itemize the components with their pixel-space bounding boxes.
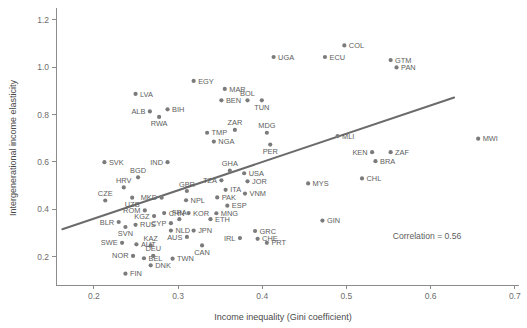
y-tick-label: 1.0: [37, 62, 49, 72]
point-marker: [160, 196, 164, 200]
data-point: VNM: [243, 189, 266, 198]
point-marker: [157, 115, 161, 119]
data-points: LVAEGYALBBIHRWACOLUGAECUGTMPANMARBOLBENT…: [98, 41, 498, 278]
plot-canvas: 0.20.30.40.50.60.70.20.40.60.81.01.2 LVA…: [0, 0, 527, 328]
data-point: IRL: [224, 234, 242, 243]
point-marker: [133, 92, 137, 96]
point-label: TUN: [254, 103, 269, 112]
data-point: SWE: [101, 238, 124, 247]
data-point: PER: [263, 143, 278, 157]
point-marker: [265, 131, 269, 135]
point-marker: [133, 223, 137, 227]
point-marker: [268, 143, 272, 147]
data-point: MKD: [141, 193, 164, 202]
data-point: MDG: [258, 121, 275, 135]
x-axis-title: Income inequality (Gini coefficient): [214, 312, 351, 322]
x-tick-label: 0.4: [256, 291, 268, 301]
x-tick-label: 0.5: [341, 291, 353, 301]
annotations: Correlation = 0.56: [393, 231, 462, 241]
point-marker: [373, 159, 377, 163]
point-marker: [123, 272, 127, 276]
point-label: EGY: [198, 77, 214, 86]
data-point: BLR: [100, 218, 121, 227]
point-marker: [208, 217, 212, 221]
data-point: RWA: [151, 115, 168, 129]
point-label: BEN: [226, 96, 241, 105]
point-label: KEN: [352, 148, 367, 157]
data-point: SVN: [118, 225, 133, 239]
point-label: RUS: [140, 220, 156, 229]
point-label: CAN: [194, 248, 210, 257]
data-point: TWN: [170, 254, 193, 263]
data-point: BRA: [373, 157, 395, 166]
point-marker: [102, 160, 106, 164]
point-label: PAN: [401, 63, 416, 72]
point-label: TZA: [203, 176, 217, 185]
point-label: NOR: [112, 251, 128, 260]
data-point: NPL: [184, 196, 205, 205]
point-marker: [212, 139, 216, 143]
point-marker: [184, 198, 188, 202]
data-point: ZAR: [227, 118, 242, 132]
data-point: LVA: [133, 90, 153, 99]
data-point: KEN: [352, 148, 374, 157]
data-point: ECU: [323, 53, 345, 62]
point-label: ETH: [215, 215, 230, 224]
point-label: ECU: [329, 53, 345, 62]
data-point: FRA: [172, 208, 187, 222]
data-point: JPN: [192, 226, 213, 235]
point-marker: [185, 189, 189, 193]
point-label: SVN: [118, 229, 133, 238]
correlation-annotation: Correlation = 0.56: [393, 231, 462, 241]
point-marker: [272, 55, 276, 59]
x-tick-label: 0.7: [509, 291, 521, 301]
x-tick-label: 0.2: [88, 291, 100, 301]
point-marker: [134, 242, 138, 246]
point-label: MYS: [313, 179, 329, 188]
point-label: GBR: [179, 180, 195, 189]
point-marker: [225, 204, 229, 208]
point-marker: [219, 98, 223, 102]
point-marker: [370, 150, 374, 154]
point-marker: [476, 137, 480, 141]
data-point: FIN: [123, 269, 142, 278]
point-marker: [224, 188, 228, 192]
data-point: BGD: [130, 166, 146, 180]
point-marker: [177, 217, 181, 221]
point-label: KAZ: [144, 234, 159, 243]
point-label: JPN: [198, 226, 212, 235]
point-marker: [103, 198, 107, 202]
point-label: GIN: [327, 216, 340, 225]
y-tick-label: 0.4: [37, 204, 49, 214]
point-label: CHL: [367, 174, 382, 183]
scatter-chart: 0.20.30.40.50.60.70.20.40.60.81.01.2 LVA…: [0, 0, 527, 328]
point-marker: [265, 241, 269, 245]
data-point: TUN: [254, 98, 269, 112]
data-point: EGY: [192, 77, 214, 86]
point-label: TMP: [212, 128, 228, 137]
point-marker: [389, 58, 393, 62]
point-label: MDG: [258, 121, 275, 130]
point-marker: [219, 178, 223, 182]
point-label: ZAF: [395, 148, 409, 157]
data-point: ZAF: [389, 148, 410, 157]
data-point: KOR: [186, 209, 209, 218]
point-marker: [245, 98, 249, 102]
data-point: CAN: [194, 243, 210, 257]
point-label: ALB: [131, 107, 145, 116]
data-point: RUS: [133, 220, 155, 229]
data-point: CHL: [360, 174, 381, 183]
point-label: NPL: [191, 196, 205, 205]
data-point: ALB: [131, 107, 152, 116]
point-marker: [130, 196, 134, 200]
point-label: BRA: [380, 157, 395, 166]
point-label: IRL: [224, 234, 236, 243]
point-marker: [148, 109, 152, 113]
point-label: PRT: [271, 238, 286, 247]
point-marker: [117, 220, 121, 224]
point-marker: [233, 128, 237, 132]
point-label: RWA: [151, 119, 168, 128]
point-label: PER: [263, 147, 278, 156]
point-marker: [360, 176, 364, 180]
point-marker: [151, 254, 155, 258]
